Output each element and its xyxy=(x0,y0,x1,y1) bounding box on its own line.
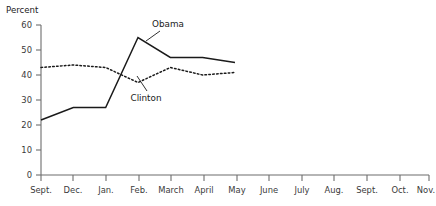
y-tick-label: 60 xyxy=(21,20,32,30)
y-tick-label: 30 xyxy=(21,95,32,105)
y-tick-label: 20 xyxy=(21,120,32,130)
x-tick-label: Sept. xyxy=(30,185,52,195)
y-axis-labels: 60 50 40 30 20 10 0 xyxy=(21,20,32,180)
y-tick-label: 0 xyxy=(27,170,32,180)
y-axis-ticks xyxy=(36,25,41,175)
x-tick-label: Feb. xyxy=(130,185,148,195)
x-tick-label: Nov. xyxy=(417,185,435,195)
chart-canvas: Percent 60 50 40 30 20 10 0 xyxy=(0,0,436,206)
x-tick-label: Jan. xyxy=(97,185,114,195)
x-axis-labels: Sept. Dec. Jan. Feb. March April May Jun… xyxy=(30,185,435,195)
series-label-clinton: Clinton xyxy=(130,93,161,103)
x-tick-label: June xyxy=(259,185,278,195)
x-tick-label: Oct. xyxy=(391,185,408,195)
line-chart: Percent 60 50 40 30 20 10 0 xyxy=(0,0,436,206)
x-tick-label: Aug. xyxy=(324,185,343,195)
x-tick-label: April xyxy=(194,185,213,195)
x-tick-label: Sept. xyxy=(356,185,378,195)
y-tick-label: 10 xyxy=(21,145,32,155)
x-tick-label: Dec. xyxy=(64,185,83,195)
series-line-clinton xyxy=(41,65,235,83)
obama-leader-line xyxy=(146,31,160,41)
x-tick-label: May xyxy=(228,185,245,195)
y-axis-title: Percent xyxy=(6,5,39,15)
x-tick-label: March xyxy=(158,185,184,195)
y-tick-label: 50 xyxy=(21,45,32,55)
series-line-obama xyxy=(41,38,235,121)
y-tick-label: 40 xyxy=(21,70,32,80)
x-tick-label: July xyxy=(293,185,309,195)
x-axis-ticks xyxy=(41,175,429,181)
series-label-obama: Obama xyxy=(152,19,184,29)
